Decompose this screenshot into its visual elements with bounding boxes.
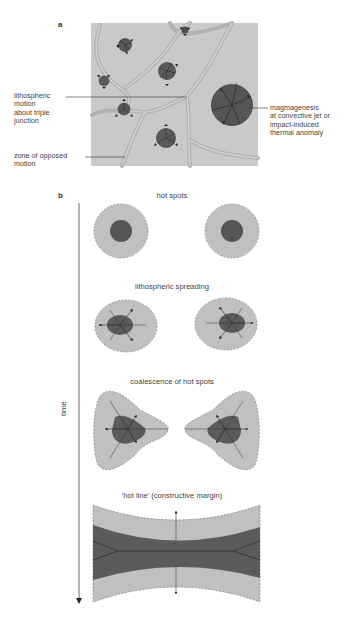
label-magmagenesis: magmagenesis at convective jet or impact…: [270, 104, 330, 138]
stage-title-coalescence: coalescence of hot spots: [72, 377, 272, 386]
time-axis: [76, 203, 82, 604]
stage-hot-line: [93, 505, 260, 602]
time-axis-label: time: [59, 401, 68, 416]
panel-b-letter: b: [58, 191, 63, 200]
stage-coalescence: [94, 391, 260, 469]
stage-hot-spots: [94, 204, 259, 258]
stage-lithospheric-spreading: [95, 298, 257, 352]
label-triple-junction: lithospheric motion about triple junctio…: [14, 92, 50, 126]
stage-title-hot-line: 'hot line' (constructive margin): [72, 491, 272, 500]
stage-title-hot-spots: hot spots: [72, 191, 272, 200]
diagram-canvas: [0, 0, 345, 634]
stage-title-spreading: lithospheric spreading: [72, 282, 272, 291]
panel-a-map: [66, 23, 268, 166]
label-opposed-motion: zone of opposed motion: [14, 152, 67, 169]
